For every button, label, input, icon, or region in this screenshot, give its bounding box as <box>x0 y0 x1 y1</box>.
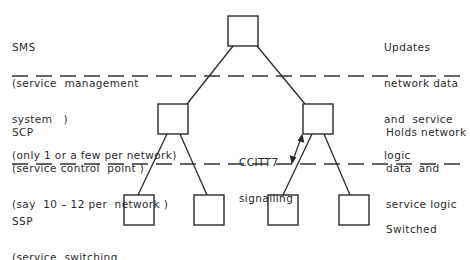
ssp-role: Switched calls <box>386 199 437 260</box>
signalling-annotation: CCITT7 signalling <box>239 132 293 216</box>
scp-node-right <box>303 104 333 134</box>
scp-role-line: Holds network <box>386 126 467 138</box>
annotation-line: signalling <box>239 192 293 204</box>
ssp-node-4 <box>339 195 369 225</box>
sms-node <box>228 16 258 46</box>
scp-desc-line: (service control point ) <box>12 162 168 174</box>
sms-title: SMS <box>12 41 177 53</box>
scp-role-line: data and <box>386 162 467 174</box>
sms-role-line: network data <box>384 77 458 89</box>
annotation-line: CCITT7 <box>239 156 293 168</box>
ssp-role-line: Switched <box>386 223 437 235</box>
sms-role-line: Updates <box>384 41 458 53</box>
sms-desc-line: (service management <box>12 77 177 89</box>
ssp-description: SSP (service switching point ) ( a funct… <box>12 191 121 260</box>
scp-title: SCP <box>12 126 168 138</box>
ssp-node-2 <box>194 195 224 225</box>
ssp-desc-line: (service switching <box>12 251 121 260</box>
ssp-title: SSP <box>12 215 121 227</box>
